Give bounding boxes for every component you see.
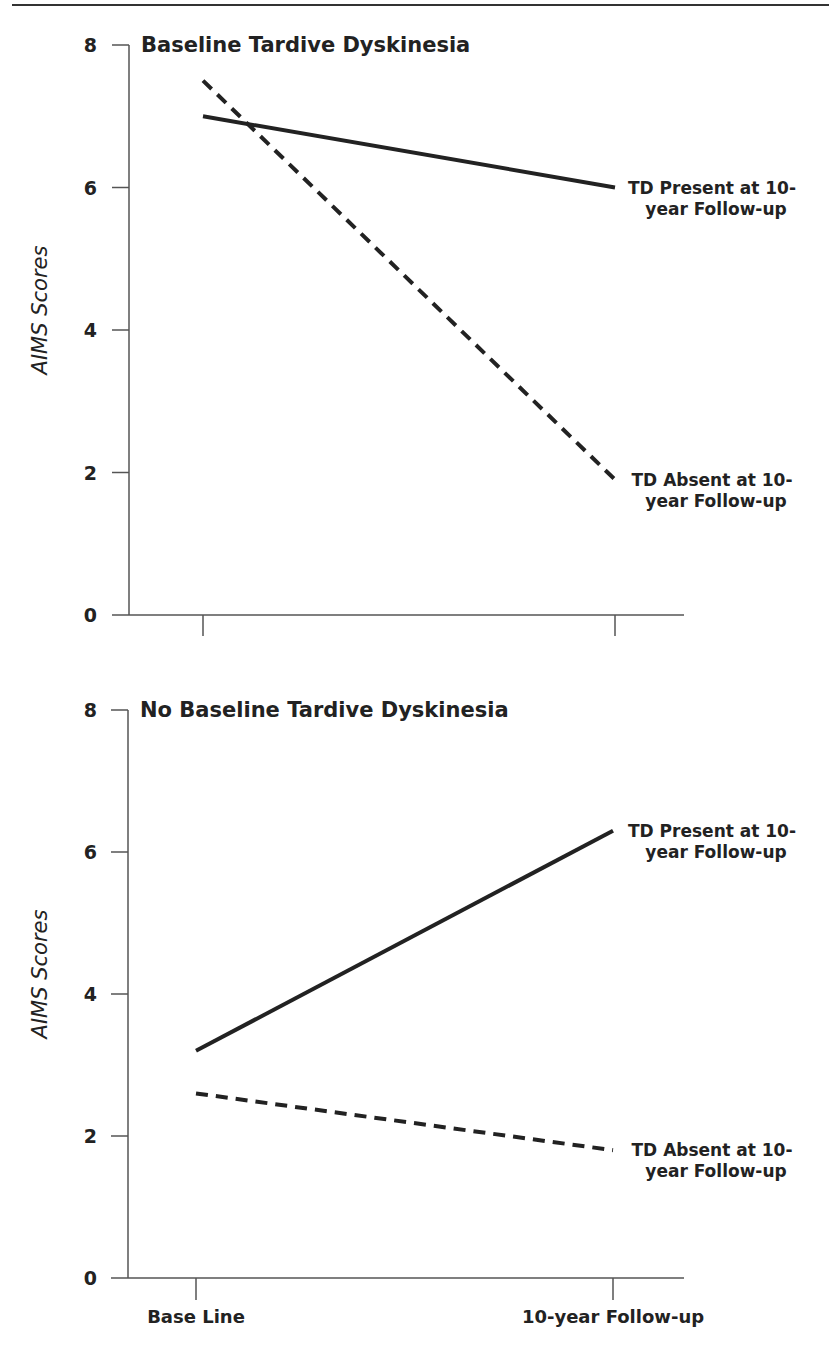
series-end-label: TD Present at 10-year Follow-up xyxy=(628,178,796,219)
series-line-td-present xyxy=(196,831,613,1051)
series-end-label: TD Absent at 10-year Follow-up xyxy=(632,470,793,511)
y-tick-label: 6 xyxy=(84,177,97,199)
y-tick-label: 4 xyxy=(84,319,97,341)
series-end-label: TD Present at 10-year Follow-up xyxy=(628,821,796,862)
series-end-label: TD Absent at 10-year Follow-up xyxy=(632,1140,793,1181)
series-line-td-absent xyxy=(196,1093,613,1150)
chart-title: Baseline Tardive Dyskinesia xyxy=(141,33,470,57)
y-tick-label: 8 xyxy=(84,699,97,721)
series-line-td-absent xyxy=(203,81,615,480)
chart-title: No Baseline Tardive Dyskinesia xyxy=(140,698,509,722)
chart-panel-no-baseline-td: 02468Base Line10-year Follow-upNo Baseli… xyxy=(28,698,796,1327)
charts-canvas: 02468Baseline Tardive DyskinesiaAIMS Sco… xyxy=(0,0,829,1348)
x-category-label: 10-year Follow-up xyxy=(522,1306,704,1327)
x-category-label: Base Line xyxy=(147,1306,245,1327)
chart-panel-baseline-td: 02468Baseline Tardive DyskinesiaAIMS Sco… xyxy=(28,33,796,636)
y-tick-label: 0 xyxy=(84,604,97,626)
y-axis-label: AIMS Scores xyxy=(28,245,52,376)
y-tick-label: 0 xyxy=(84,1267,97,1289)
y-tick-label: 8 xyxy=(84,34,97,56)
y-tick-label: 6 xyxy=(84,841,97,863)
y-axis-label: AIMS Scores xyxy=(28,909,52,1040)
y-tick-label: 4 xyxy=(84,983,97,1005)
y-tick-label: 2 xyxy=(84,1125,97,1147)
series-line-td-present xyxy=(203,116,615,187)
y-tick-label: 2 xyxy=(84,462,97,484)
